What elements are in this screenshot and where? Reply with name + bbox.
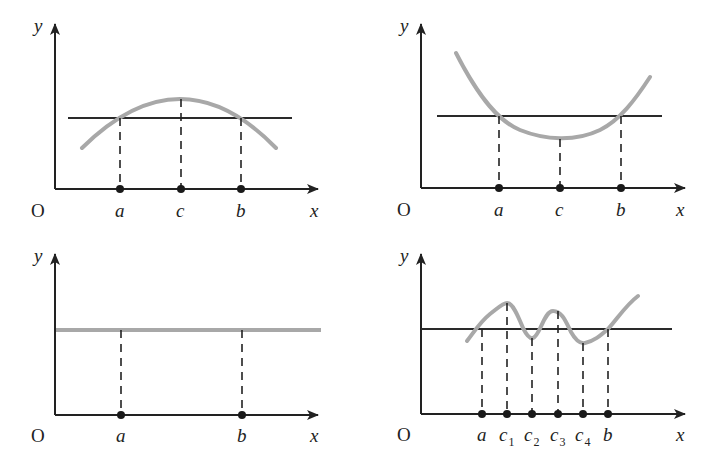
x-axis-label: x (309, 200, 319, 221)
origin-label: O (397, 424, 411, 445)
point-a (116, 185, 124, 193)
point-a (117, 411, 125, 419)
panel-top-right: y x O a c b (397, 15, 685, 220)
point-b (604, 410, 612, 418)
label-c4: c4 (575, 424, 590, 449)
y-axis-label: y (398, 15, 409, 36)
y-axis-label: y (32, 245, 43, 266)
function-curve (456, 53, 650, 138)
point-b (238, 411, 246, 419)
x-axis-label: x (675, 199, 685, 220)
point-c (177, 185, 185, 193)
label-b: b (603, 424, 613, 445)
label-b: b (236, 200, 246, 221)
y-axis-label: y (32, 15, 43, 36)
function-curve (467, 296, 638, 343)
point-b (237, 185, 245, 193)
point-a (495, 184, 503, 192)
label-a: a (494, 199, 504, 220)
point-b (617, 184, 625, 192)
panel-top-left: y x O a c b (31, 15, 319, 221)
point-c1 (503, 410, 511, 418)
y-axis-label: y (398, 245, 409, 266)
point-c (556, 184, 564, 192)
origin-label: O (31, 200, 45, 221)
x-axis-label: x (675, 424, 685, 445)
label-c1: c1 (499, 424, 514, 449)
origin-label: O (31, 425, 45, 446)
point-c2 (528, 410, 536, 418)
label-c2: c2 (524, 424, 539, 449)
label-a: a (115, 200, 125, 221)
panel-bottom-left: y x O a b (31, 245, 321, 446)
label-c: c (555, 199, 564, 220)
point-a (478, 410, 486, 418)
label-a: a (477, 424, 487, 445)
panel-bottom-right: y x O a c1 c2 c3 c4 b (397, 245, 685, 449)
label-b: b (616, 199, 626, 220)
x-axis-label: x (309, 425, 319, 446)
label-b: b (237, 425, 247, 446)
point-c3 (554, 410, 562, 418)
point-c4 (579, 410, 587, 418)
label-a: a (116, 425, 126, 446)
rolle-theorem-figure: y x O a c b y x O a c b y x O a (0, 0, 721, 467)
function-curve (82, 99, 276, 148)
label-c3: c3 (550, 424, 565, 449)
label-c: c (176, 200, 185, 221)
origin-label: O (397, 199, 411, 220)
